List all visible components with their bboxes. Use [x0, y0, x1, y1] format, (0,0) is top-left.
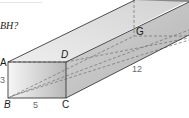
- front-face: [8, 62, 66, 98]
- prism-diagram: [0, 0, 189, 118]
- dimension-length: 12: [132, 65, 142, 74]
- vertex-label-g: G: [136, 27, 144, 37]
- vertex-label-c: C: [62, 100, 69, 110]
- dimension-height: 3: [0, 76, 5, 85]
- vertex-label-a: A: [0, 58, 7, 68]
- vertex-label-b: B: [4, 100, 11, 110]
- vertex-label-d: D: [61, 50, 68, 60]
- dimension-width: 5: [33, 101, 38, 110]
